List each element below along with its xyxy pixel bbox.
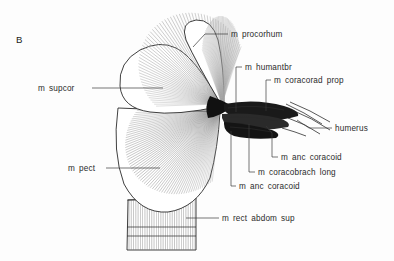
label-text-m-rect-abdom-sup: m rect abdom sup [222,214,295,223]
label-text-m-procorhum: m procorhum [231,30,283,39]
label-text-m-coracorad-prop: m coracorad prop [274,76,344,85]
label-text-m-pect: m pect [68,164,96,173]
panel-label: B [16,34,22,45]
label-text-m-anc-coracoid-lower: m anc coracoid [239,182,300,191]
label-text-m-supcor: m supcor [38,84,75,93]
label-text-m-coracobrach-long: m coracobrach long [258,168,336,177]
label-text-m-anc-coracoid-upper: m anc coracoid [281,153,342,162]
label-text-humerus: humerus [335,124,368,133]
anatomical-figure: m procorhumm supcorm humantbrm coracorad… [0,0,394,261]
label-text-m-humantbr: m humantbr [245,63,292,72]
